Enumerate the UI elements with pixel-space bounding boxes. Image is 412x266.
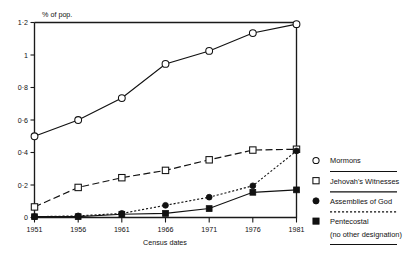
data-point-1951 <box>31 133 38 140</box>
data-point-1956 <box>75 214 81 220</box>
series-line <box>35 149 297 207</box>
data-point-1971 <box>206 48 213 55</box>
legend-marker-filled-square <box>313 218 319 224</box>
x-tick-label-1961: 1961 <box>114 226 130 234</box>
x-axis-caption: Census dates <box>143 238 187 247</box>
series-layer <box>31 21 300 220</box>
data-point-1981 <box>293 21 300 28</box>
legend-label-assemblies-of-god: Assemblies of God <box>330 197 392 206</box>
y-tick-label-0: 0 <box>24 214 28 222</box>
y-tick-labels: 0 0·2 0·4 0·6 0·8 1 1·2 <box>18 19 28 222</box>
legend-note-no-other-designation: (no other designation) <box>330 230 402 239</box>
x-tick-label-1966: 1966 <box>158 226 174 234</box>
series-line <box>35 24 297 136</box>
series-mormons <box>31 21 300 140</box>
x-tick-label-1951: 1951 <box>27 226 43 234</box>
data-point-1961 <box>119 174 125 180</box>
data-point-1976 <box>250 147 256 153</box>
legend-marker-open-square <box>313 178 319 184</box>
data-point-1976 <box>250 189 256 195</box>
data-point-1971 <box>206 194 212 200</box>
y-tick-label-1: 1 <box>24 52 28 60</box>
series-assemblies-of-god <box>32 148 300 220</box>
data-point-1966 <box>162 167 168 173</box>
data-point-1966 <box>163 202 169 208</box>
chart-axes <box>35 23 297 218</box>
legend-marker-open-circle <box>313 157 319 163</box>
y-tick-label-06: 0·6 <box>18 117 28 125</box>
y-tick-label-04: 0·4 <box>18 149 28 157</box>
legend-label-jehovahs-witnesses: Jehovah's Witnesses <box>330 177 399 186</box>
chart-figure: 0 0·2 0·4 0·6 0·8 1 1·2 % of pop. 1951 1… <box>0 0 412 266</box>
y-tick-label-08: 0·8 <box>18 84 28 92</box>
x-tick-label-1981: 1981 <box>289 226 305 234</box>
chart-legend: Mormons Jehovah's Witnesses Assemblies o… <box>313 156 402 244</box>
data-point-1961 <box>118 95 125 102</box>
data-point-1976 <box>249 30 256 37</box>
legend-label-pentecostal: Pentecostal <box>330 217 369 226</box>
data-point-1966 <box>162 61 169 68</box>
data-point-1966 <box>163 211 169 217</box>
x-ticks <box>35 218 297 223</box>
x-tick-label-1971: 1971 <box>201 226 217 234</box>
data-point-1971 <box>206 206 212 212</box>
data-point-1981 <box>294 187 300 193</box>
data-point-1981 <box>294 148 300 154</box>
x-tick-labels: 1951 1956 1961 1966 1971 1976 1981 <box>27 226 305 234</box>
y-tick-label-12: 1·2 <box>18 19 28 27</box>
data-point-1951 <box>31 204 37 210</box>
data-point-1976 <box>250 183 256 189</box>
y-axis-caption: % of pop. <box>42 10 72 19</box>
legend-marker-filled-circle <box>313 198 319 204</box>
data-point-1961 <box>119 211 125 217</box>
series-jehovah-s-witnesses <box>31 146 299 210</box>
axis-frame <box>35 23 297 218</box>
y-tick-label-02: 0·2 <box>18 182 28 190</box>
legend-label-mormons: Mormons <box>330 156 361 165</box>
chart-svg: 0 0·2 0·4 0·6 0·8 1 1·2 % of pop. 1951 1… <box>0 0 412 266</box>
data-point-1971 <box>206 157 212 163</box>
data-point-1956 <box>75 117 82 124</box>
data-point-1956 <box>75 184 81 190</box>
data-point-1951 <box>32 214 38 220</box>
x-tick-label-1956: 1956 <box>70 226 86 234</box>
x-tick-label-1976: 1976 <box>245 226 261 234</box>
